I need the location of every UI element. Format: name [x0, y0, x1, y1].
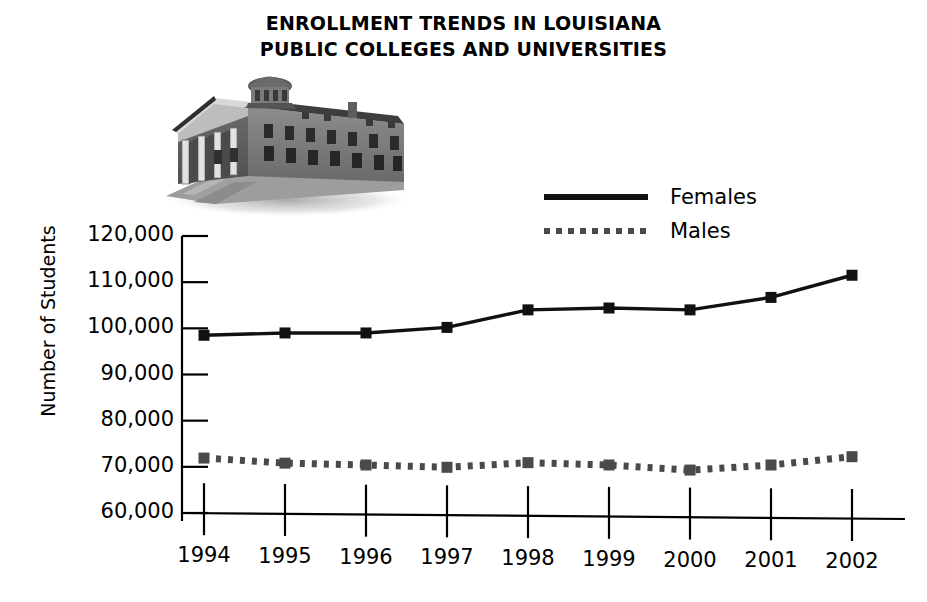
- x-axis-tick-label: 2000: [650, 548, 730, 572]
- data-point-females-2001: [766, 292, 777, 303]
- line-chart: Number of Students 60,00070,00080,00090,…: [0, 0, 927, 602]
- data-point-females-1996: [361, 327, 372, 338]
- data-point-females-2000: [685, 304, 696, 315]
- data-point-males-2000: [685, 465, 696, 476]
- x-axis-tick-label: 1996: [326, 545, 406, 569]
- data-point-females-2002: [847, 270, 858, 281]
- y-axis-tick-label: 60,000: [54, 499, 174, 523]
- y-axis-tick-label: 100,000: [54, 314, 174, 338]
- data-point-males-1997: [442, 462, 453, 473]
- y-axis-tick-label: 80,000: [54, 407, 174, 431]
- data-point-males-1996: [361, 459, 372, 470]
- y-axis-tick-label: 70,000: [54, 453, 174, 477]
- x-axis-tick-label: 2001: [731, 548, 811, 572]
- data-point-females-1997: [442, 322, 453, 333]
- y-axis-tick-label: 120,000: [54, 222, 174, 246]
- x-axis-tick-label: 1999: [569, 547, 649, 571]
- x-axis-tick-label: 2002: [812, 549, 892, 573]
- data-point-males-1995: [280, 458, 291, 469]
- data-point-males-1998: [523, 457, 534, 468]
- x-axis-tick-label: 1994: [164, 543, 244, 567]
- data-point-females-1994: [199, 330, 210, 341]
- data-point-males-1999: [604, 459, 615, 470]
- x-axis-line: [182, 513, 905, 519]
- data-point-females-1995: [280, 327, 291, 338]
- x-axis-tick-label: 1997: [407, 545, 487, 569]
- x-axis-tick-label: 1998: [488, 546, 568, 570]
- data-point-males-2002: [847, 451, 858, 462]
- y-axis-tick-label: 90,000: [54, 361, 174, 385]
- data-point-females-1998: [523, 304, 534, 315]
- data-point-males-1994: [199, 453, 210, 464]
- data-point-females-1999: [604, 303, 615, 314]
- data-point-males-2001: [766, 459, 777, 470]
- x-axis-tick-label: 1995: [245, 544, 325, 568]
- y-axis-tick-label: 110,000: [54, 268, 174, 292]
